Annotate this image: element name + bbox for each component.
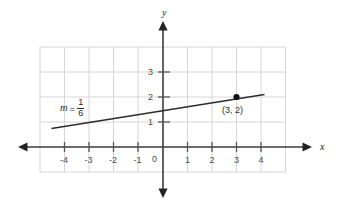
slope-equals-sign: =: [69, 104, 77, 114]
y-axis-ticks: [158, 72, 170, 122]
x-tick-label-1: 1: [185, 156, 190, 165]
x-axis-label: x: [320, 142, 324, 152]
x-axis-left-arrowhead: [18, 142, 28, 151]
point-label-3-2: (3, 2): [222, 106, 243, 115]
data-point-3-2: [233, 94, 239, 100]
y-tick-label-3: 3: [148, 68, 153, 77]
x-tick-label--3: -3: [85, 156, 93, 165]
slope-annotation: m = 1 6: [60, 98, 84, 119]
x-axis-right-arrowhead: [303, 142, 313, 151]
graph-figure: -4 -3 -2 -1 1 2 3 4 0 1 2 3 y x m = 1 6 …: [0, 0, 338, 206]
y-axis: [158, 21, 167, 198]
x-axis: [18, 142, 312, 151]
x-tick-label--1: -1: [134, 156, 142, 165]
x-tick-label--2: -2: [109, 156, 117, 165]
y-axis-label: y: [162, 8, 166, 18]
x-tick-label-2: 2: [210, 156, 215, 165]
x-tick-label--4: -4: [60, 156, 68, 165]
x-tick-label-3: 3: [234, 156, 239, 165]
y-axis-bottom-arrowhead: [158, 189, 167, 199]
y-tick-label-1: 1: [148, 118, 153, 127]
y-tick-label-2: 2: [148, 93, 153, 102]
y-axis-top-arrowhead: [158, 21, 167, 31]
origin-label: 0: [152, 155, 157, 164]
slope-numerator: 1: [77, 98, 84, 107]
slope-denominator: 6: [77, 109, 84, 118]
x-tick-label-4: 4: [259, 156, 264, 165]
coordinate-plane-svg: [0, 0, 338, 206]
slope-fraction: 1 6: [76, 98, 84, 119]
slope-variable: m: [60, 103, 69, 114]
